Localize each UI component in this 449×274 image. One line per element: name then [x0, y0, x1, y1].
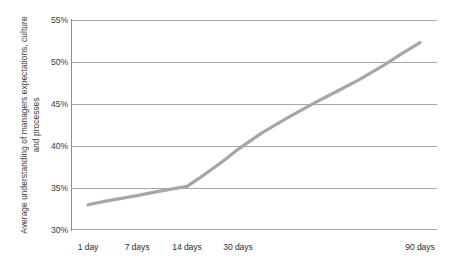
y-tick-label-40: 40%: [38, 141, 68, 151]
x-tick-label-1-day: 1 day: [78, 242, 99, 252]
y-tick-label-50: 50%: [38, 57, 68, 67]
x-tick-label-30-days: 30 days: [223, 242, 252, 252]
x-tick-label-14-days: 14 days: [172, 242, 201, 252]
y-axis-title: Average understanding of managers expect…: [19, 16, 49, 234]
series-line: [72, 20, 437, 230]
y-tick-label-55: 55%: [38, 15, 68, 25]
x-tick-label-90-days: 90 days: [405, 242, 434, 252]
y-tick-label-45: 45%: [38, 99, 68, 109]
y-tick-label-35: 35%: [38, 183, 68, 193]
line-chart: Average understanding of managers expect…: [0, 0, 449, 274]
plot-area: [72, 20, 437, 230]
y-tick-label-30: 30%: [38, 225, 68, 235]
x-tick-label-7-days: 7 days: [125, 242, 150, 252]
